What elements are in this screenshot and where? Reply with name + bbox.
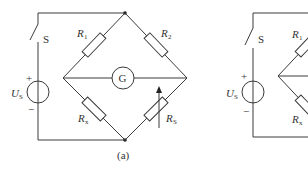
plus-sign: +	[241, 70, 247, 82]
resistor-rx	[295, 95, 308, 115]
rx-label: R	[291, 113, 299, 125]
switch-blade	[245, 28, 253, 45]
r1-sub: 1	[299, 34, 303, 42]
galvanometer-label: G	[119, 72, 127, 84]
r2-sub: 2	[168, 33, 172, 41]
switch-blade	[30, 24, 38, 40]
switch-label: S	[43, 33, 49, 45]
r2-label: R	[160, 27, 168, 39]
circuit-diagram: G S + − U S R 1 R 2 R x R S (a) S + − U	[0, 0, 308, 170]
rx-label: R	[77, 112, 85, 124]
r1-sub: 1	[84, 33, 88, 41]
circuit-b-partial: S + − U S R 1 R x	[226, 13, 308, 137]
source-sub: S	[234, 93, 238, 101]
circuit-a: G S + − U S R 1 R 2 R x R S (a)	[11, 11, 187, 162]
r1-label: R	[291, 28, 299, 40]
r1-label: R	[76, 27, 84, 39]
source-sub: S	[19, 93, 23, 101]
rs-label: R	[165, 112, 173, 124]
rx-sub: x	[299, 119, 303, 127]
minus-sign: −	[28, 103, 34, 115]
rs-sub: S	[173, 118, 177, 126]
minus-sign: −	[243, 105, 249, 117]
plus-sign: +	[26, 72, 32, 84]
rx-sub: x	[85, 118, 89, 126]
arrow-head-icon	[156, 86, 162, 93]
switch-label: S	[258, 33, 264, 45]
resistor-rs	[144, 97, 168, 121]
caption-a: (a)	[117, 149, 130, 162]
